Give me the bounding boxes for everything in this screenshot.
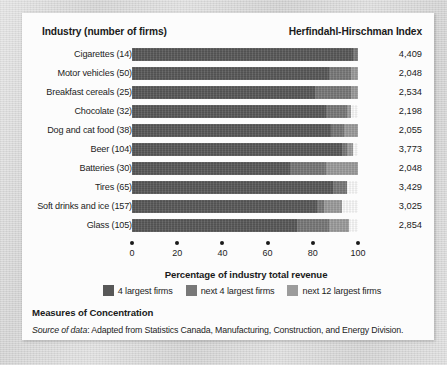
bar-segment-next-12-largest-firms bbox=[351, 86, 358, 99]
x-axis-tick-label: 60 bbox=[253, 248, 283, 258]
legend-swatch-icon bbox=[287, 285, 298, 296]
x-axis-tick-label: 80 bbox=[298, 248, 328, 258]
caption-title: Measures of Concentration bbox=[32, 307, 153, 318]
industry-label: Glass (105) bbox=[87, 220, 132, 230]
chart-row: Glass (105)2,854 bbox=[22, 217, 434, 236]
bar-segment-next-4-largest-firms bbox=[290, 162, 326, 175]
source-prefix: Source of data bbox=[32, 325, 87, 335]
tick-dot-icon bbox=[130, 241, 134, 245]
column-headers: Industry (number of firms) Herfindahl-Hi… bbox=[22, 26, 434, 42]
stacked-bar bbox=[132, 143, 358, 156]
x-axis-tick: 100 bbox=[343, 241, 373, 258]
stacked-bar bbox=[132, 86, 358, 99]
chart-row: Dog and cat food (38)2,055 bbox=[22, 122, 434, 141]
bar-segment-next-12-largest-firms bbox=[351, 67, 358, 80]
bar-segment-4-largest-firms bbox=[132, 105, 326, 118]
legend-swatch-icon bbox=[186, 285, 197, 296]
hhi-value: 2,854 bbox=[370, 220, 422, 230]
chart-legend: 4 largest firmsnext 4 largest firmsnext … bbox=[22, 285, 434, 296]
chart-row: Soft drinks and ice (157)3,025 bbox=[22, 198, 434, 217]
x-axis-tick: 60 bbox=[253, 241, 283, 258]
bar-segment-4-largest-firms bbox=[132, 86, 315, 99]
industry-label: Beer (104) bbox=[91, 144, 132, 154]
figure-panel: Industry (number of firms) Herfindahl-Hi… bbox=[22, 13, 434, 340]
bar-segment-next-12-largest-firms bbox=[326, 162, 358, 175]
industry-label: Tires (65) bbox=[95, 182, 132, 192]
stacked-bar bbox=[132, 67, 358, 80]
bar-segment-next-4-largest-firms bbox=[329, 67, 352, 80]
bar-segment-next-4-largest-firms bbox=[317, 200, 324, 213]
stacked-bar bbox=[132, 181, 358, 194]
stacked-bar bbox=[132, 200, 358, 213]
hhi-value: 3,025 bbox=[370, 201, 422, 211]
bar-segment-next-12-largest-firms bbox=[329, 219, 349, 232]
hhi-value: 2,048 bbox=[370, 68, 422, 78]
x-axis-title: Percentage of industry total revenue bbox=[22, 269, 434, 280]
industry-label: Soft drinks and ice (157) bbox=[37, 201, 132, 211]
stacked-bar bbox=[132, 48, 358, 61]
hhi-value: 2,055 bbox=[370, 125, 422, 135]
bar-segment-next-4-largest-firms bbox=[297, 219, 329, 232]
legend-label: 4 largest firms bbox=[118, 286, 173, 296]
x-axis-tick: 40 bbox=[207, 241, 237, 258]
stacked-bar bbox=[132, 124, 358, 137]
bar-segment-next-4-largest-firms bbox=[326, 105, 346, 118]
bar-segment-4-largest-firms bbox=[132, 124, 331, 137]
chart-row: Breakfast cereals (25)2,534 bbox=[22, 84, 434, 103]
bar-segment-next-12-largest-firms bbox=[347, 143, 354, 156]
bar-segment-next-12-largest-firms bbox=[324, 200, 342, 213]
legend-label: next 12 largest firms bbox=[302, 286, 381, 296]
chart-row: Motor vehicles (50)2,048 bbox=[22, 65, 434, 84]
chart-row: Beer (104)3,773 bbox=[22, 141, 434, 160]
x-axis-tick-label: 40 bbox=[207, 248, 237, 258]
hhi-column-header: Herfindahl-Hirschman Index bbox=[289, 26, 422, 37]
legend-item: 4 largest firms bbox=[103, 285, 173, 296]
industry-label: Batteries (30) bbox=[80, 163, 133, 173]
tick-dot-icon bbox=[266, 241, 270, 245]
chart-row: Batteries (30)2,048 bbox=[22, 160, 434, 179]
x-axis-tick-label: 100 bbox=[343, 248, 373, 258]
hhi-value: 4,409 bbox=[370, 49, 422, 59]
bar-segment-4-largest-firms bbox=[132, 162, 290, 175]
hhi-value: 3,429 bbox=[370, 182, 422, 192]
hhi-value: 3,773 bbox=[370, 144, 422, 154]
legend-label: next 4 largest firms bbox=[201, 286, 275, 296]
legend-item: next 12 largest firms bbox=[287, 285, 381, 296]
bar-segment-next-4-largest-firms bbox=[353, 48, 358, 61]
tick-dot-icon bbox=[311, 241, 315, 245]
hhi-value: 2,048 bbox=[370, 163, 422, 173]
source-of-data-line: Source of data: Adapted from Statistics … bbox=[32, 325, 403, 335]
industry-label: Breakfast cereals (25) bbox=[46, 87, 132, 97]
bar-segment-4-largest-firms bbox=[132, 143, 342, 156]
industry-label: Dog and cat food (38) bbox=[47, 125, 132, 135]
chart-row: Cigarettes (14)4,409 bbox=[22, 46, 434, 65]
industry-column-header: Industry (number of firms) bbox=[42, 26, 167, 37]
bar-segment-next-4-largest-firms bbox=[315, 86, 351, 99]
bar-segment-next-4-largest-firms bbox=[331, 124, 345, 137]
x-axis-tick: 80 bbox=[298, 241, 328, 258]
tick-dot-icon bbox=[175, 241, 179, 245]
x-axis-tick: 20 bbox=[162, 241, 192, 258]
bar-chart: Cigarettes (14)4,409Motor vehicles (50)2… bbox=[22, 46, 434, 236]
bar-segment-4-largest-firms bbox=[132, 67, 329, 80]
legend-item: next 4 largest firms bbox=[186, 285, 275, 296]
bar-segment-4-largest-firms bbox=[132, 219, 297, 232]
bar-segment-4-largest-firms bbox=[132, 181, 333, 194]
legend-swatch-icon bbox=[103, 285, 114, 296]
x-axis-tick-label: 20 bbox=[162, 248, 192, 258]
industry-label: Chocolate (32) bbox=[74, 106, 132, 116]
industry-label: Cigarettes (14) bbox=[74, 49, 132, 59]
x-axis: 020406080100 bbox=[132, 241, 358, 267]
chart-row: Chocolate (32)2,198 bbox=[22, 103, 434, 122]
industry-label: Motor vehicles (50) bbox=[58, 68, 132, 78]
hhi-value: 2,534 bbox=[370, 87, 422, 97]
x-axis-tick-label: 0 bbox=[117, 248, 147, 258]
x-axis-tick: 0 bbox=[117, 241, 147, 258]
stacked-bar bbox=[132, 219, 358, 232]
stacked-bar bbox=[132, 105, 358, 118]
bar-segment-next-12-largest-firms bbox=[347, 105, 352, 118]
chart-row: Tires (65)3,429 bbox=[22, 179, 434, 198]
bar-segment-4-largest-firms bbox=[132, 200, 317, 213]
tick-dot-icon bbox=[220, 241, 224, 245]
hhi-value: 2,198 bbox=[370, 106, 422, 116]
